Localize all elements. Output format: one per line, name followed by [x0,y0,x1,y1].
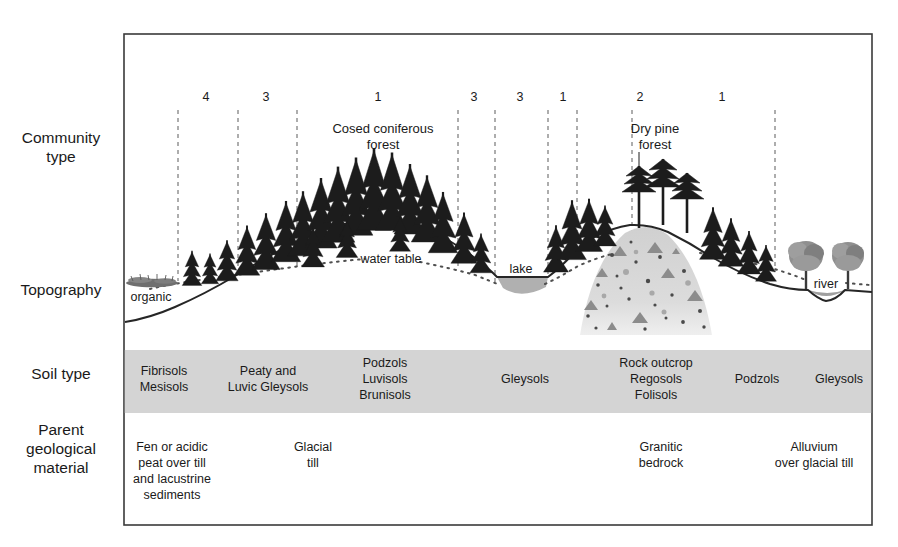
parent-entry-line: sediments [144,488,201,502]
dry-pine-forest-label: Dry pine [631,121,679,136]
zone-number: 3 [517,90,524,104]
soil-entry-line: Podzols [363,356,407,370]
closed-coniferous-forest-label-line2: forest [367,137,400,152]
soil-entry-line: Fibrisols [141,364,188,378]
soil-entry-line: Luvic Gleysols [228,380,309,394]
zone-number: 4 [203,90,210,104]
soil-entry-line: Brunisols [359,388,410,402]
soil-entry-line: Peaty and [240,364,296,378]
soil-entry-line: Folisols [635,388,677,402]
zone-number: 2 [637,90,644,104]
parent-entry-line: Alluvium [790,440,837,454]
parent-entry-line: Granitic [639,440,682,454]
figure-canvas: Community type Topography Soil type Pare… [0,0,898,547]
river-label: river [814,277,838,291]
zone-number: 3 [471,90,478,104]
lake-label: lake [510,262,533,276]
dry-pine-forest-label-line2: forest [639,137,672,152]
soil-entry-line: Regosols [630,372,682,386]
soil-entry-line: Rock outcrop [619,356,693,370]
zone-number: 3 [263,90,270,104]
zone-number: 1 [375,90,382,104]
water-table-label: water table [359,252,421,266]
cross-section-diagram: 4 3 1 3 3 1 2 1 Cosed coniferous forest … [0,0,898,547]
parent-entry-line: over glacial till [775,456,854,470]
soil-entry-line: Gleysols [501,372,549,386]
zone-number: 1 [719,90,726,104]
soil-entry-line: Mesisols [140,380,189,394]
parent-entry-line: bedrock [639,456,684,470]
closed-coniferous-forest-label: Cosed coniferous [332,121,434,136]
zone-number: 1 [560,90,567,104]
organic-label: organic [131,290,172,304]
parent-entry-line: and lacustrine [133,472,211,486]
soil-entry-line: Podzols [735,372,779,386]
soil-entry-line: Luvisols [362,372,407,386]
parent-entry-line: Fen or acidic [136,440,208,454]
parent-entry-line: till [307,456,319,470]
soil-entry-line: Gleysols [815,372,863,386]
parent-entry-line: Glacial [294,440,332,454]
parent-entry-line: peat over till [138,456,205,470]
